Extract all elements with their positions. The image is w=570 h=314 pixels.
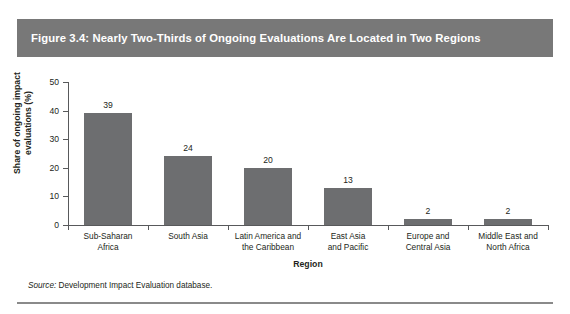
source-note: Source: Development Impact Evaluation da… [28,281,212,290]
bar[interactable] [244,168,292,225]
y-axis-tick-label: 50 [49,77,59,87]
y-axis-tick-label: 0 [54,220,59,230]
x-axis-category-label-line: Latin America and [228,231,308,242]
x-axis-category-label-line: the Caribbean [228,242,308,253]
source-text: Development Impact Evaluation database. [56,281,212,290]
y-axis-tick-label: 10 [49,191,59,201]
x-axis-category-label: East Asiaand Pacific [308,231,388,252]
x-axis-tick-mark [548,225,549,230]
source-label: Source: [28,281,56,290]
x-axis-tick-mark [228,225,229,230]
bar-value-label: 2 [426,206,431,216]
y-axis-tick-label: 30 [49,134,59,144]
y-axis-title: Share of ongoing impact evaluations (%) [12,59,34,187]
x-axis-category-label-line: East Asia [308,231,388,242]
figure-container: Figure 3.4: Nearly Two-Thirds of Ongoing… [0,0,570,314]
bar-value-label: 13 [343,175,353,185]
bar-slot: 13 [308,82,388,225]
bar-slot: 39 [68,82,148,225]
y-axis-title-line2: evaluations (%) [23,91,33,155]
bar[interactable] [164,156,212,225]
x-axis-category-label-line: North Africa [468,242,548,253]
x-axis-title: Region [68,259,548,269]
x-axis-tick-mark [68,225,69,230]
bar[interactable] [324,188,372,225]
bar-value-label: 20 [263,155,273,165]
x-axis-category-label-line: Middle East and [468,231,548,242]
x-axis-category-label-line: Sub-Saharan [68,231,148,242]
x-axis-category-label: Europe andCentral Asia [388,231,468,252]
x-axis-category-label: Latin America andthe Caribbean [228,231,308,252]
bar[interactable] [84,113,132,225]
x-axis-category-label-line: Central Asia [388,242,468,253]
x-axis-tick-mark [468,225,469,230]
bar-slot: 24 [148,82,228,225]
bottom-rule [17,302,553,304]
y-axis-title-line1: Share of ongoing impact [12,72,22,174]
x-axis-tick-mark [388,225,389,230]
x-axis-tick-mark [148,225,149,230]
y-axis-tick-label: 20 [49,163,59,173]
figure-title-band: Figure 3.4: Nearly Two-Thirds of Ongoing… [17,19,553,57]
figure-title: Figure 3.4: Nearly Two-Thirds of Ongoing… [17,32,481,44]
bar[interactable] [404,219,452,225]
x-axis-category-label: Middle East andNorth Africa [468,231,548,252]
x-axis-category-label-line: Europe and [388,231,468,242]
bar-value-label: 24 [183,143,193,153]
x-axis-tick-mark [308,225,309,230]
bar-slot: 2 [388,82,468,225]
x-axis-category-label: South Asia [148,231,228,242]
bar-slot: 2 [468,82,548,225]
bar-value-label: 39 [103,100,113,110]
bar-value-label: 2 [506,206,511,216]
x-axis-category-label-line: and Pacific [308,242,388,253]
bar-slot: 20 [228,82,308,225]
x-axis-category-label-line: Africa [68,242,148,253]
plot-area: 01020304050 3924201322 [68,82,548,225]
x-axis-category-label-line: South Asia [148,231,228,242]
x-axis-category-label: Sub-SaharanAfrica [68,231,148,252]
y-axis-tick-label: 40 [49,106,59,116]
bar[interactable] [484,219,532,225]
